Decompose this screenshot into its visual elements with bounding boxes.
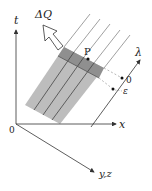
t-axis-label: t [14,14,19,27]
origin-label: 0 [9,125,15,135]
projection-lines [99,68,122,89]
x-axis-label: x [119,118,126,131]
lambda-label: λ [134,46,142,59]
point-p-dot [86,57,89,60]
zero-point-dot [121,77,124,80]
epsilon-point-dot [112,88,115,91]
point-p-label: P [84,46,91,57]
epsilon-label: ε [123,86,128,96]
flux-label: ΔQ [34,8,52,21]
flux-arrow [43,25,63,50]
zero-label: 0 [126,75,132,85]
spacetime-diagram: λ 0 ε P ΔQ t x y,z 0 [0,0,152,191]
yz-axis-label: y,z [98,168,113,179]
yz-axis [16,124,94,172]
